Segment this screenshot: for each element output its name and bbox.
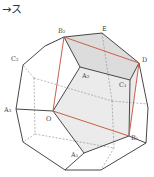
edge xyxy=(16,109,23,142)
edge xyxy=(45,37,64,46)
vertex-label: E xyxy=(102,25,107,33)
hidden-edge xyxy=(23,65,34,78)
vertex-label: B₁ xyxy=(131,134,139,142)
edge xyxy=(16,65,23,109)
edge xyxy=(23,142,65,170)
vertex-label: C₁ xyxy=(119,81,127,89)
dodecahedron-diagram: B₂EDC₂A₂C₁A₃OB₁A₁ xyxy=(0,0,154,177)
edge xyxy=(146,108,148,143)
vertex-label: O xyxy=(46,115,51,123)
hidden-edge xyxy=(34,78,35,134)
edge xyxy=(23,46,45,65)
vertex-label: B₂ xyxy=(58,27,66,35)
vertex-label: D xyxy=(142,56,147,64)
hidden-edge xyxy=(101,148,114,170)
edge xyxy=(139,63,148,108)
vertex-label: C₂ xyxy=(11,55,19,63)
vertex-label: A₃ xyxy=(3,106,12,114)
hidden-edge xyxy=(23,134,35,142)
vertex-label: A₁ xyxy=(70,151,79,159)
vertex-label: A₂ xyxy=(81,72,90,80)
